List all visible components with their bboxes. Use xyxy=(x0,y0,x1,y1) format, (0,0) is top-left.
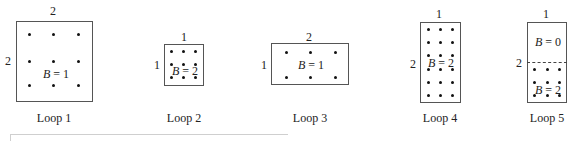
divider-tick xyxy=(10,134,11,141)
loop-3-field-label: B = 1 xyxy=(298,59,324,71)
field-dot xyxy=(451,41,454,44)
field-dot xyxy=(309,76,312,79)
loop-3-height-label: 1 xyxy=(261,59,267,71)
loop-5-caption: Loop 5 xyxy=(530,112,564,124)
loop-5-width-label: 1 xyxy=(543,8,549,20)
field-dot xyxy=(451,81,454,84)
field-dot xyxy=(427,41,430,44)
field-dot xyxy=(334,76,337,79)
loop-4-width-label: 1 xyxy=(436,8,442,20)
field-dot xyxy=(28,84,31,87)
loop-2-height-label: 1 xyxy=(154,59,160,71)
field-dot xyxy=(558,68,561,71)
field-dot xyxy=(451,94,454,97)
field-dot xyxy=(451,28,454,31)
field-dot xyxy=(334,51,337,54)
loop-3-caption: Loop 3 xyxy=(293,112,327,124)
field-dot xyxy=(28,60,31,63)
loop-2-caption: Loop 2 xyxy=(167,112,201,124)
field-dot xyxy=(52,60,55,63)
field-dot xyxy=(285,51,288,54)
loop-1-width-label: 2 xyxy=(50,5,56,17)
field-dot xyxy=(533,68,536,71)
field-dot xyxy=(439,81,442,84)
loop-4-caption: Loop 4 xyxy=(423,112,457,124)
loop-1-field-label: B = 1 xyxy=(43,68,69,80)
loop-5-height-label: 2 xyxy=(516,57,522,69)
loop-3-width-label: 2 xyxy=(306,31,312,43)
loop-2-width-label: 1 xyxy=(181,31,187,43)
field-dot xyxy=(309,51,312,54)
field-dot xyxy=(77,60,80,63)
field-dot xyxy=(28,33,31,36)
field-dot xyxy=(439,28,442,31)
field-dot xyxy=(77,33,80,36)
loop-1-height-label: 2 xyxy=(5,55,11,67)
field-dot xyxy=(52,33,55,36)
field-dot xyxy=(170,50,173,53)
field-dot xyxy=(427,28,430,31)
field-dot xyxy=(182,50,185,53)
divider-line xyxy=(10,134,288,135)
loop-5-upper-field-label: B = 0 xyxy=(535,36,561,48)
field-dot xyxy=(439,41,442,44)
field-dot xyxy=(427,94,430,97)
field-dot xyxy=(427,81,430,84)
field-dot xyxy=(77,84,80,87)
field-dot xyxy=(52,84,55,87)
field-dot xyxy=(439,94,442,97)
loop-5-field-boundary xyxy=(527,62,567,63)
loop-5-lower-field-label: B = 2 xyxy=(535,84,561,96)
loop-4-height-label: 2 xyxy=(410,58,416,70)
loop-4-field-label: B = 2 xyxy=(428,57,454,69)
field-dot xyxy=(194,50,197,53)
field-dot xyxy=(285,76,288,79)
field-dot xyxy=(546,68,549,71)
loop-2-field-label: B = 2 xyxy=(172,65,198,77)
loop-1-caption: Loop 1 xyxy=(37,112,71,124)
